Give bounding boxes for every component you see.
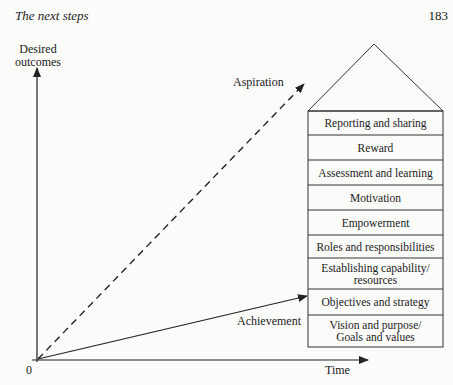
house-row: Motivation <box>308 185 443 210</box>
house-row: Reporting and sharing <box>308 111 443 135</box>
aspiration-label: Aspiration <box>233 76 284 89</box>
house-roof <box>308 44 443 111</box>
x-axis-label: Time <box>325 364 350 377</box>
house-row: Empowerment <box>308 210 443 235</box>
y-axis-label-line1: Desired <box>19 42 56 56</box>
achievement-label: Achievement <box>237 315 301 328</box>
house-row: Objectives and strategy <box>308 289 443 315</box>
y-axis-label: Desired outcomes <box>8 43 68 69</box>
house-row: Establishing capability/ resources <box>308 258 443 289</box>
y-axis-label-line2: outcomes <box>15 55 61 69</box>
house-row: Assessment and learning <box>308 160 443 185</box>
house-row: Reward <box>308 135 443 160</box>
origin-label: 0 <box>26 364 32 377</box>
house-row: Vision and purpose/ Goals and values <box>308 315 443 347</box>
house-row: Roles and responsibilities <box>308 235 443 258</box>
